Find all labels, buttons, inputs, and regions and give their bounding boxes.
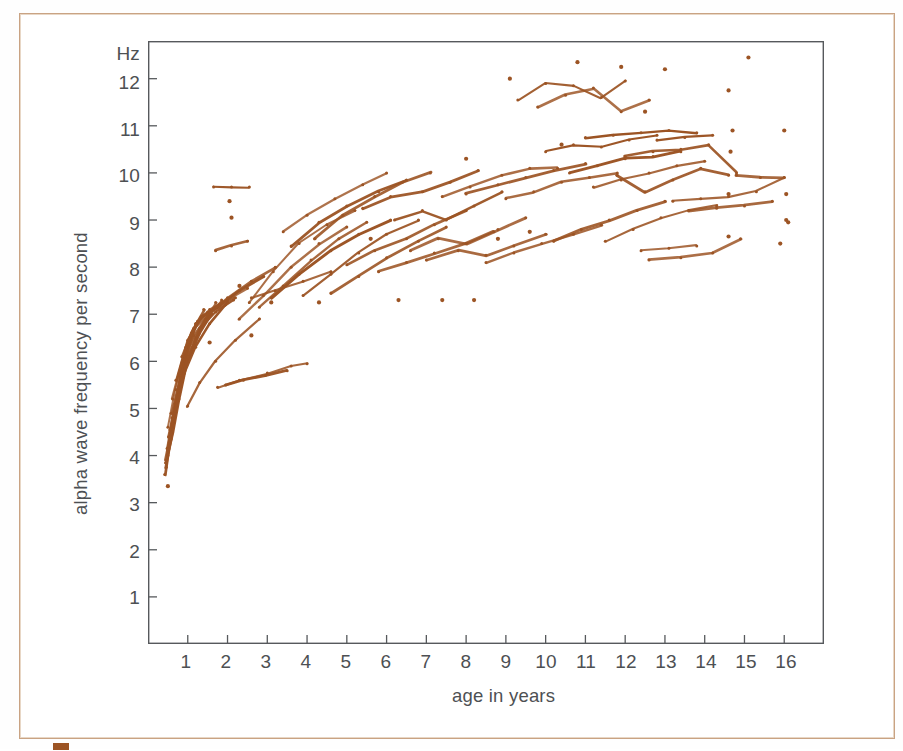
data-point <box>588 176 591 179</box>
data-point <box>695 244 698 247</box>
data-point <box>469 186 472 189</box>
data-point <box>206 313 209 316</box>
x-tick-label-16: 16 <box>764 652 808 671</box>
data-point <box>258 317 261 320</box>
data-point <box>238 317 241 320</box>
isolated-data-point <box>249 333 253 337</box>
data-point <box>164 461 167 464</box>
isolated-data-point <box>778 241 782 245</box>
data-point <box>695 131 698 134</box>
data-point <box>248 301 251 304</box>
x-tick-label-5: 5 <box>324 652 368 671</box>
data-point <box>500 174 503 177</box>
caption-color-swatch <box>53 743 69 750</box>
data-point <box>192 327 195 330</box>
data-point <box>616 174 619 177</box>
data-point <box>230 186 233 189</box>
data-point <box>306 214 309 217</box>
data-point <box>743 204 746 207</box>
isolated-points-group <box>166 55 791 488</box>
data-point <box>652 155 655 158</box>
data-point <box>329 249 332 252</box>
data-point <box>409 249 412 252</box>
data-point <box>771 200 774 203</box>
y-tick-label-12: 12 <box>96 73 140 92</box>
x-tick-label-8: 8 <box>444 652 488 671</box>
data-point <box>302 280 305 283</box>
y-axis-title: alpha wave frequency per second <box>70 232 92 515</box>
subject-trajectory <box>689 202 773 212</box>
x-axis-title: age in years <box>452 685 555 707</box>
isolated-data-point <box>728 150 732 154</box>
data-point <box>337 237 340 240</box>
data-point <box>528 167 531 170</box>
y-tick-label-10: 10 <box>96 166 140 185</box>
data-point <box>242 379 245 382</box>
data-point <box>178 393 181 396</box>
data-point <box>226 296 229 299</box>
data-point <box>640 131 643 134</box>
data-point <box>317 221 320 224</box>
isolated-data-point <box>782 128 786 132</box>
data-point <box>655 138 658 141</box>
data-point <box>592 87 595 90</box>
data-point <box>679 148 682 151</box>
data-point <box>373 195 376 198</box>
y-tick-label-11: 11 <box>96 120 140 139</box>
isolated-data-point <box>784 192 788 196</box>
x-tick-label-4: 4 <box>284 652 328 671</box>
data-point <box>516 98 519 101</box>
data-point <box>552 240 555 243</box>
data-point <box>417 240 420 243</box>
data-point <box>272 270 275 273</box>
isolated-data-point <box>464 157 468 161</box>
data-point <box>224 383 227 386</box>
data-point <box>524 216 527 219</box>
isolated-data-point <box>496 237 500 241</box>
data-point <box>310 259 313 262</box>
data-point <box>667 247 670 250</box>
data-point <box>449 181 452 184</box>
data-point <box>727 174 730 177</box>
data-point <box>739 237 742 240</box>
x-tick-label-12: 12 <box>604 652 648 671</box>
data-point <box>596 164 599 167</box>
data-point <box>186 405 189 408</box>
data-point <box>675 164 678 167</box>
data-point <box>667 129 670 132</box>
data-point <box>421 209 424 212</box>
data-point <box>208 322 211 325</box>
data-point <box>357 251 360 254</box>
data-point <box>572 143 575 146</box>
data-point <box>735 174 738 177</box>
data-point <box>200 315 203 318</box>
data-point <box>592 186 595 189</box>
data-point <box>246 240 249 243</box>
data-point <box>433 251 436 254</box>
isolated-data-point <box>663 67 667 71</box>
data-point <box>169 435 172 438</box>
x-tick-label-11: 11 <box>564 652 608 671</box>
data-point <box>699 197 702 200</box>
isolated-data-point <box>396 298 400 302</box>
data-point <box>389 219 392 222</box>
data-point <box>232 299 235 302</box>
y-tick-label-1: 1 <box>96 588 140 607</box>
data-point <box>405 261 408 264</box>
data-point <box>298 273 301 276</box>
data-point <box>648 98 651 101</box>
data-point <box>632 228 635 231</box>
subject-trajectory <box>519 81 626 100</box>
data-point <box>465 193 468 196</box>
data-point <box>524 176 527 179</box>
x-tick-label-6: 6 <box>364 652 408 671</box>
data-point <box>421 190 424 193</box>
data-point <box>345 226 348 229</box>
data-point <box>485 261 488 264</box>
data-point <box>512 251 515 254</box>
data-point <box>171 398 174 401</box>
data-point <box>608 219 611 222</box>
data-point <box>248 186 251 189</box>
data-point <box>264 374 267 377</box>
